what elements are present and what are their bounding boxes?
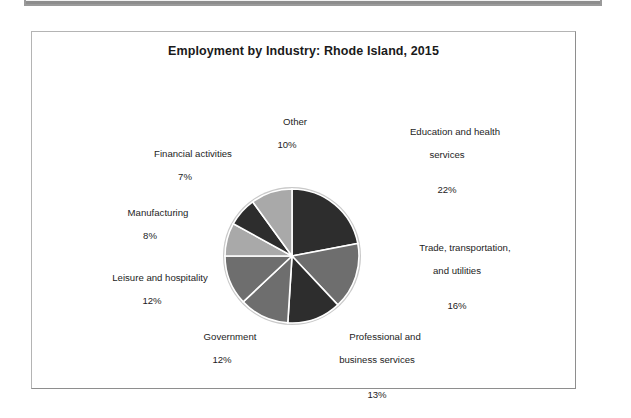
pie-label-financial-activities-percent: 7% <box>110 171 260 183</box>
pie-slice-group <box>225 189 359 323</box>
pie-label-other-name: Other <box>283 116 307 127</box>
pie-label-leisure-and-hospitality-percent: 12% <box>62 295 242 307</box>
cropped-top-panel-edge <box>26 1 600 4</box>
pie-label-manufacturing-percent: 8% <box>80 230 220 242</box>
pie-label-manufacturing-name: Manufacturing <box>128 207 189 218</box>
cropped-top-panel <box>24 0 602 6</box>
pie-label-leisure-and-hospitality-name: Leisure and hospitality <box>112 272 207 283</box>
pie-label-education-and-health-services: Education and health services 22% <box>367 114 527 218</box>
pie-label-government: Government 12% <box>152 319 292 389</box>
pie-chart-plot-area: Other 10% Financial activities 7% Manufa… <box>32 32 577 390</box>
pie-label-education-line1: Education and health <box>410 126 500 137</box>
pie-label-trade-line2: and utilities <box>377 265 537 277</box>
pie-label-education-line2: services <box>367 149 527 161</box>
chart-frame: Employment by Industry: Rhode Island, 20… <box>31 31 576 389</box>
pie-label-financial-activities-name: Financial activities <box>154 148 232 159</box>
pie-label-trade-percent: 16% <box>377 300 537 312</box>
pie-label-government-name: Government <box>204 331 257 342</box>
pie-label-professional-line2: business services <box>302 354 452 366</box>
pie-label-government-percent: 12% <box>152 354 292 366</box>
pie-label-manufacturing: Manufacturing 8% <box>80 195 220 265</box>
pie-label-trade-line1: Trade, transportation, <box>419 242 510 253</box>
pie-label-professional-percent: 13% <box>302 389 452 401</box>
pie-label-trade-transportation-and-utilities: Trade, transportation, and utilities 16% <box>377 230 537 334</box>
pie-label-education-percent: 22% <box>367 184 527 196</box>
